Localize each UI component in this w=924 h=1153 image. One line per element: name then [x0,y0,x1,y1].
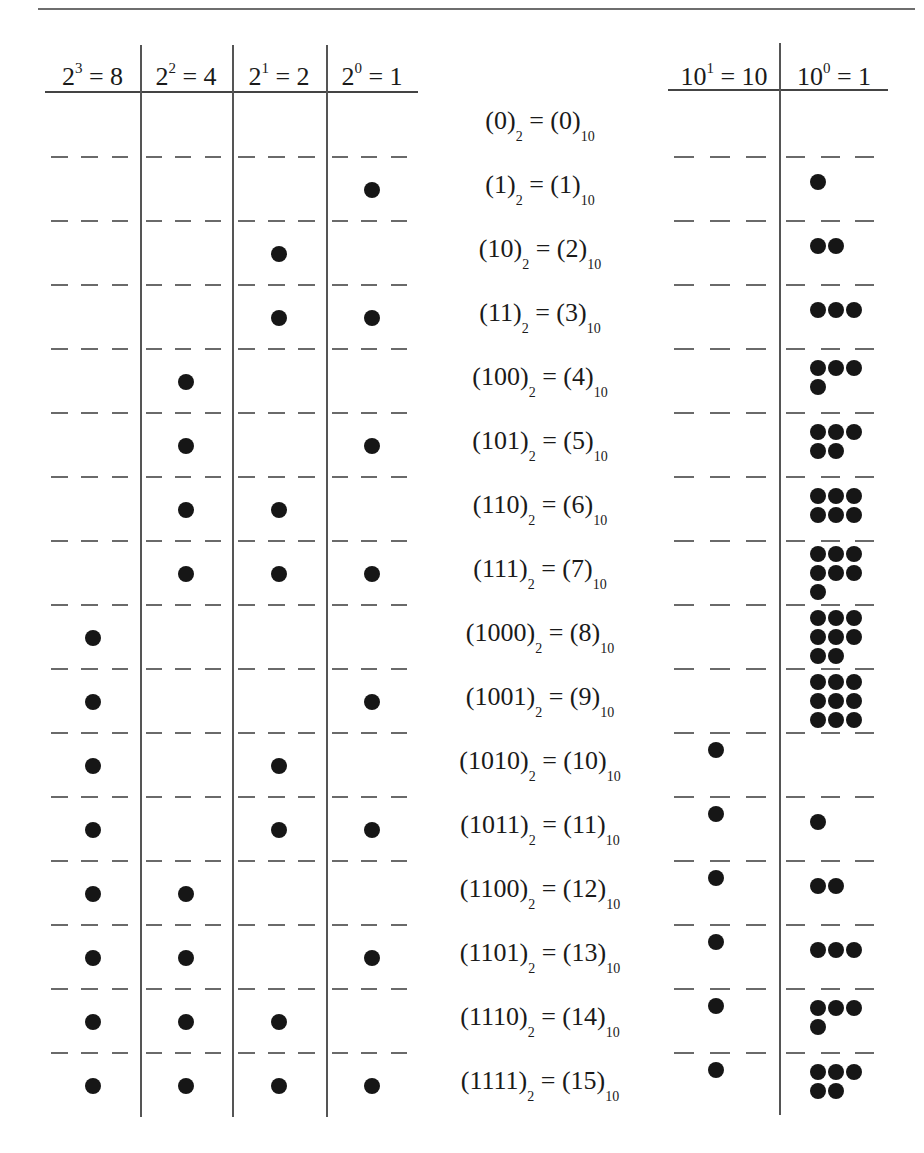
row-separator-dash [146,284,162,286]
row-separator-dash [746,604,766,606]
row-separator-dash [361,284,377,286]
row-separator-dash [112,412,129,414]
row-separator-dash [298,412,315,414]
row-separator-dash [746,540,766,542]
row-separator-dash [205,284,221,286]
row-separator-dash [51,476,68,478]
ones-dot [810,648,826,664]
row-separator-dash [51,604,68,606]
row-separator-dash [710,732,730,734]
bit-dot [178,502,194,518]
row-separator-dash [298,1052,315,1054]
row-separator-dash [81,1052,98,1054]
row-separator-dash [786,860,805,862]
row-separator-dash [746,156,766,158]
row-separator-dash [855,860,874,862]
top-rule [38,8,915,10]
row-separator-dash [821,412,840,414]
row-separator-dash [81,924,98,926]
row-separator-dash [81,860,98,862]
ones-dot [846,424,862,440]
row-separator-dash [786,348,805,350]
bit-dot [364,1078,380,1094]
row-separator-dash [786,412,805,414]
ones-dot [846,693,862,709]
row-separator-dash [238,860,255,862]
row-separator-dash [786,924,805,926]
row-separator-dash [205,156,221,158]
row-separator-dash [361,924,377,926]
row-separator-dash [112,220,129,222]
row-separator-dash [112,924,129,926]
ones-dot [846,629,862,645]
row-separator-dash [391,668,407,670]
conversion-label: (110)2 = (6)10 [440,490,640,523]
row-separator-dash [855,988,874,990]
row-separator-dash [268,348,285,350]
row-separator-dash [146,412,162,414]
bit-dot [178,1078,194,1094]
row-separator-dash [361,732,377,734]
row-separator-dash [112,732,129,734]
row-separator-dash [238,284,255,286]
row-separator-dash [51,220,68,222]
row-separator-dash [298,668,315,670]
ones-dot [828,942,844,958]
ones-dot [846,1064,862,1080]
row-separator-dash [298,924,315,926]
row-separator-dash [112,284,129,286]
row-separator-dash [674,988,694,990]
row-separator-dash [786,1052,805,1054]
row-separator-dash [332,860,348,862]
ones-dot [828,360,844,376]
tens-dot [708,1062,724,1078]
ones-dot [810,424,826,440]
row-separator-dash [710,604,730,606]
ones-dot [810,302,826,318]
tens-dot [708,742,724,758]
row-separator-dash [391,540,407,542]
bit-dot [178,374,194,390]
row-separator-dash [51,732,68,734]
row-separator-dash [51,412,68,414]
ones-dot [846,546,862,562]
bit-dot [271,758,287,774]
bit-dot [85,822,101,838]
conversion-label: (1110)2 = (14)10 [440,1002,640,1035]
row-separator-dash [674,348,694,350]
header-underline [668,89,888,91]
row-separator-dash [361,860,377,862]
row-separator-dash [332,796,348,798]
bit-dot [271,1014,287,1030]
row-separator-dash [361,156,377,158]
bit-dot [85,1078,101,1094]
row-separator-dash [51,860,68,862]
row-separator-dash [268,796,285,798]
ones-dot [828,565,844,581]
row-separator-dash [268,220,285,222]
column-divider [140,45,142,1117]
row-separator-dash [821,924,840,926]
row-separator-dash [361,348,377,350]
bit-dot [271,822,287,838]
column-divider [232,45,234,1117]
bit-dot [364,310,380,326]
row-separator-dash [332,732,348,734]
row-separator-dash [112,476,129,478]
column-header-2pow3: 23 = 8 [45,50,140,90]
ones-dot [846,360,862,376]
row-separator-dash [81,156,98,158]
row-separator-dash [332,156,348,158]
ones-dot [828,629,844,645]
ones-dot [810,674,826,690]
row-separator-dash [332,476,348,478]
row-separator-dash [391,412,407,414]
row-separator-dash [855,924,874,926]
row-separator-dash [710,1052,730,1054]
row-separator-dash [238,412,255,414]
ones-dot [846,302,862,318]
row-separator-dash [786,604,805,606]
conversion-label: (100)2 = (4)10 [440,362,640,395]
row-separator-dash [175,412,191,414]
row-separator-dash [205,668,221,670]
